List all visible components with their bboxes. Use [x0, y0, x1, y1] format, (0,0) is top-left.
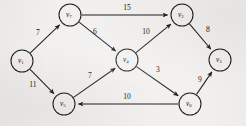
node-v5: v5 — [53, 93, 75, 115]
edge-v4-to-v2 — [136, 24, 171, 53]
edge-weight-v7-v4: 6 — [93, 27, 97, 36]
edge-v5-to-v4 — [74, 68, 116, 97]
node-v6: v6 — [179, 93, 201, 115]
edge-v7-to-v4 — [79, 22, 116, 51]
edge-weight-v4-v2: 10 — [142, 27, 150, 36]
edge-weight-v2-v3: 8 — [206, 25, 210, 34]
edge-weight-v6-v3: 9 — [198, 75, 202, 84]
graph-figure: v1v7v2v3v4v5v6 71115610837109 — [0, 0, 246, 126]
graph-canvas: v1v7v2v3v4v5v6 71115610837109 — [0, 0, 246, 126]
edge-weight-v1-v5: 11 — [29, 80, 37, 89]
edge-weight-v1-v7: 7 — [36, 28, 40, 37]
node-v7: v7 — [59, 4, 81, 26]
edge-weight-v6-v5: 10 — [123, 92, 131, 101]
node-v3: v3 — [209, 49, 231, 71]
edge-weight-v5-v4: 7 — [88, 71, 92, 80]
edge-weight-v4-v6: 3 — [156, 65, 160, 74]
node-v2: v2 — [171, 4, 193, 26]
node-v4: v4 — [116, 49, 138, 71]
nodes-layer: v1v7v2v3v4v5v6 — [11, 4, 231, 115]
edge-v1-to-v7 — [30, 25, 59, 53]
edge-weight-v7-v2: 15 — [123, 3, 131, 12]
node-v1: v1 — [11, 50, 33, 72]
